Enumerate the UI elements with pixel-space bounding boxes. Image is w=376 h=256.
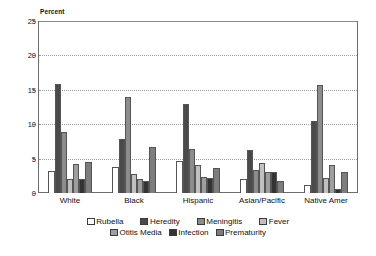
- bar-chart: Percent 0510152025 WhiteBlackHispanicAsi…: [0, 0, 376, 256]
- x-axis-labels: WhiteBlackHispanicAsian/PacificNative Am…: [38, 196, 358, 205]
- y-axis-tick-label: 5: [2, 154, 36, 163]
- y-axis-tick-mark: [33, 90, 36, 91]
- gridline: [39, 90, 357, 91]
- y-axis-tick-mark: [33, 159, 36, 160]
- gridline: [39, 21, 357, 22]
- legend-swatch-icon: [140, 218, 148, 225]
- legend-swatch-icon: [259, 218, 267, 225]
- legend-item[interactable]: Meningitis: [197, 217, 243, 226]
- y-axis-tick-label: 10: [2, 120, 36, 129]
- y-axis-tick-mark: [33, 55, 36, 56]
- chart-legend: RubellaHeredityMeningitisFever Otitis Me…: [0, 216, 376, 238]
- gridline: [39, 159, 357, 160]
- legend-label: Rubella: [96, 217, 123, 226]
- y-axis-tick-label: 20: [2, 51, 36, 60]
- y-axis-tick-mark: [33, 124, 36, 125]
- x-axis-category-label: Native Amer: [298, 196, 354, 205]
- legend-label: Fever: [269, 217, 289, 226]
- y-axis-title: Percent: [40, 8, 65, 15]
- legend-swatch-icon: [169, 229, 177, 236]
- legend-label: Heredity: [150, 217, 180, 226]
- legend-row-1: RubellaHeredityMeningitisFever: [0, 216, 376, 227]
- legend-item[interactable]: Heredity: [140, 217, 179, 226]
- legend-label: Meningitis: [206, 217, 242, 226]
- y-axis-tick-mark: [33, 193, 36, 194]
- y-axis-tick-label: 0: [2, 189, 36, 198]
- x-axis-category-label: Black: [106, 196, 162, 205]
- legend-row-2: Otitis MediaInfectionPrematurity: [0, 227, 376, 238]
- x-axis-category-label: White: [42, 196, 98, 205]
- plot-area: [38, 21, 358, 193]
- gridline: [39, 124, 357, 125]
- legend-label: Infection: [178, 228, 208, 237]
- legend-item[interactable]: Prematurity: [216, 228, 266, 237]
- legend-item[interactable]: Infection: [169, 228, 209, 237]
- legend-item[interactable]: Otitis Media: [110, 228, 162, 237]
- legend-swatch-icon: [216, 229, 224, 236]
- gridline: [39, 55, 357, 56]
- x-axis-category-label: Hispanic: [170, 196, 226, 205]
- legend-item[interactable]: Fever: [259, 217, 289, 226]
- legend-swatch-icon: [87, 218, 95, 225]
- y-axis-tick-mark: [33, 21, 36, 22]
- legend-swatch-icon: [110, 229, 118, 236]
- legend-swatch-icon: [197, 218, 205, 225]
- x-axis-category-label: Asian/Pacific: [234, 196, 290, 205]
- y-axis-tick-label: 25: [2, 17, 36, 26]
- y-axis-tick-label: 15: [2, 85, 36, 94]
- y-axis: 0510152025: [0, 21, 36, 193]
- legend-label: Prematurity: [225, 228, 266, 237]
- legend-item[interactable]: Rubella: [87, 217, 124, 226]
- legend-label: Otitis Media: [120, 228, 162, 237]
